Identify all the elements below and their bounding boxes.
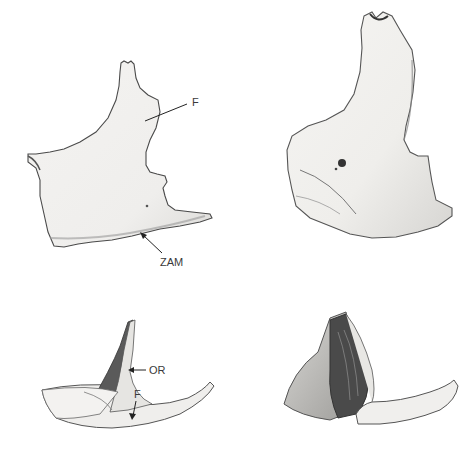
bone-illustration-figure: F ZAM bbox=[0, 0, 471, 460]
foramen-dot bbox=[338, 159, 346, 167]
label-or: OR bbox=[149, 365, 166, 376]
bone-orbital-view-right bbox=[240, 290, 471, 460]
label-zam: ZAM bbox=[160, 257, 183, 268]
bone-orbital-view-left bbox=[0, 290, 240, 460]
panel-top-right bbox=[240, 0, 471, 290]
panel-bottom-right bbox=[240, 290, 471, 460]
panel-bottom-left: OR F bbox=[0, 290, 240, 460]
bone-lateral-view-right bbox=[240, 0, 471, 290]
bone-outline bbox=[28, 61, 212, 247]
bone-lateral-view-left bbox=[0, 0, 240, 290]
label-f-top: F bbox=[192, 97, 199, 108]
panel-top-left: F ZAM bbox=[0, 0, 240, 290]
label-f-bottom: F bbox=[134, 389, 141, 400]
bone-outline bbox=[287, 12, 452, 238]
leader-arrow-zam bbox=[143, 235, 162, 253]
